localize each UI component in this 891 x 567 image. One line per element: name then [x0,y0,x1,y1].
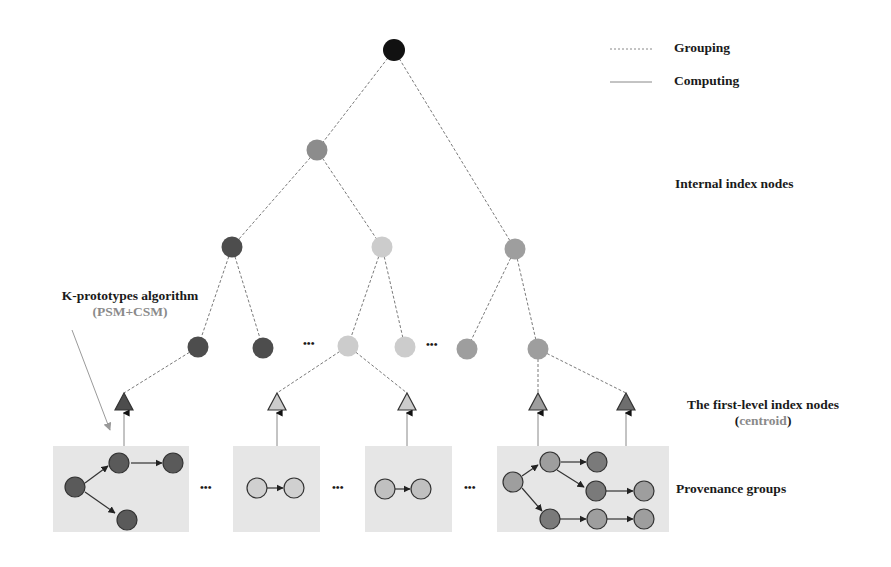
legend [610,49,652,82]
provenance-groups-label: Provenance groups [676,481,786,497]
provenance-group-box [233,446,320,532]
ellipsis-groups-1: ••• [200,481,212,493]
algorithm-label: K-prototypes algorithm (PSM+CSM) [30,288,230,320]
tree-node [307,140,328,161]
tree-node [188,337,209,358]
ellipsis-groups-2: ••• [332,481,344,493]
ellipsis-tree-2: ••• [426,338,438,350]
algorithm-pointer-arrow [72,330,110,430]
paren-close: ) [787,413,792,428]
legend-computing-label: Computing [674,73,739,89]
tree-node [457,339,478,360]
internal-index-nodes [188,39,549,360]
centroid-triangle-icon [268,393,286,410]
first-level-index-nodes [115,393,635,410]
ellipsis-tree-1: ••• [303,337,315,349]
legend-grouping-label: Grouping [674,40,730,56]
first-level-title: The first-level index nodes [668,397,858,413]
centroid-triangle-icon [617,393,635,410]
algorithm-subtitle: (PSM+CSM) [30,304,230,320]
ellipsis-groups-3: ••• [464,481,476,493]
centroid-triangle-icon [115,393,133,410]
tree-node [505,239,526,260]
first-level-index-label: The first-level index nodes (centroid) [668,397,858,429]
centroid-triangle-icon [398,393,416,410]
computing-edges [124,413,626,446]
tree-node [395,337,416,358]
internal-index-nodes-label: Internal index nodes [675,176,794,192]
first-level-subtitle: (centroid) [668,413,858,429]
tree-node [222,237,243,258]
centroid-triangle-icon [529,393,547,410]
tree-node [528,339,549,360]
tree-node [338,336,359,357]
tree-node [372,237,393,258]
root-node [383,39,405,61]
centroid-word: centroid [739,413,787,428]
algorithm-title: K-prototypes algorithm [30,288,230,304]
tree-node [253,338,274,359]
